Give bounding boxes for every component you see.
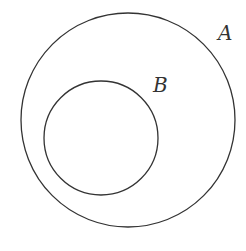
- set-b-circle: [44, 81, 158, 195]
- set-a-circle: [21, 13, 235, 227]
- venn-diagram: A B: [0, 0, 246, 251]
- set-a-label: A: [216, 21, 232, 45]
- venn-diagram-svg: A B: [0, 0, 246, 251]
- set-b-label: B: [152, 73, 168, 97]
